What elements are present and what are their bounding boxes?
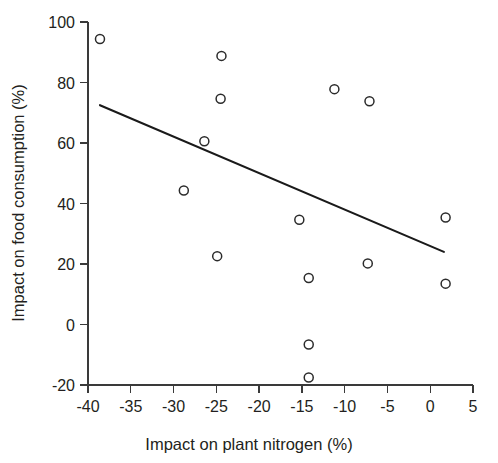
y-tick-label: 80 bbox=[57, 75, 75, 92]
tick-labels: -40-35-30-25-20-15-10-505-20020406080100 bbox=[48, 14, 477, 415]
data-point bbox=[304, 373, 313, 382]
x-tick-label: -5 bbox=[380, 398, 394, 415]
x-tick-label: 5 bbox=[469, 398, 478, 415]
tick-marks bbox=[80, 22, 473, 393]
data-point bbox=[95, 34, 104, 43]
data-point bbox=[365, 97, 374, 106]
x-tick-label: -10 bbox=[333, 398, 356, 415]
data-point bbox=[179, 186, 188, 195]
data-point bbox=[295, 215, 304, 224]
x-tick-label: 0 bbox=[426, 398, 435, 415]
y-tick-label: 60 bbox=[57, 135, 75, 152]
y-tick-label: 0 bbox=[66, 317, 75, 334]
scatter-chart: -40-35-30-25-20-15-10-505-20020406080100… bbox=[0, 0, 498, 463]
data-points bbox=[95, 34, 450, 381]
data-point bbox=[304, 340, 313, 349]
x-tick-label: -30 bbox=[162, 398, 185, 415]
data-point bbox=[304, 273, 313, 282]
data-point bbox=[441, 213, 450, 222]
data-point bbox=[216, 94, 225, 103]
data-point bbox=[217, 51, 226, 60]
x-axis-label: Impact on plant nitrogen (%) bbox=[145, 435, 352, 453]
x-tick-label: -35 bbox=[119, 398, 142, 415]
data-point bbox=[363, 259, 372, 268]
x-tick-label: -25 bbox=[205, 398, 228, 415]
data-point bbox=[441, 279, 450, 288]
trend-line bbox=[100, 105, 444, 252]
data-point bbox=[213, 252, 222, 261]
axes bbox=[88, 22, 473, 385]
x-tick-label: -20 bbox=[248, 398, 271, 415]
y-tick-label: 100 bbox=[48, 14, 75, 31]
x-tick-label: -40 bbox=[76, 398, 99, 415]
data-point bbox=[330, 85, 339, 94]
x-tick-label: -15 bbox=[290, 398, 313, 415]
y-tick-label: 40 bbox=[57, 196, 75, 213]
trend-line-segment bbox=[100, 105, 444, 252]
y-tick-label: -20 bbox=[52, 377, 75, 394]
y-axis-label: Impact on food consumption (%) bbox=[9, 84, 27, 322]
y-tick-label: 20 bbox=[57, 256, 75, 273]
data-point bbox=[200, 137, 209, 146]
